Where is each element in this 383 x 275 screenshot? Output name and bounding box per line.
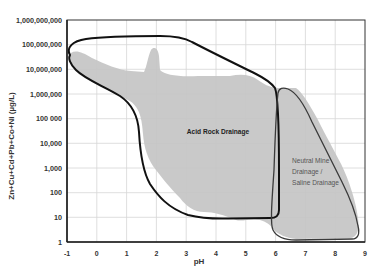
y-tick-label: 10,000,000 [26, 65, 62, 74]
y-tick-label: 1,000 [44, 164, 62, 173]
y-tick-label: 1 [58, 238, 62, 247]
x-tick-label: 1 [125, 250, 129, 257]
y-tick-labels: 1,000,000,000 100,000,000 10,000,000 1,0… [16, 16, 62, 247]
x-tick-label: 8 [333, 250, 337, 257]
y-tick-label: 1,000,000 [30, 90, 62, 99]
y-tick-label: 100 000 [36, 114, 62, 123]
neutral-mine-label-line3: Saline Drainage [292, 179, 339, 187]
x-tick-label: 7 [303, 250, 307, 257]
y-tick-label: 10,000 [40, 139, 62, 148]
x-tick-label: 9 [363, 250, 367, 257]
x-tick-label: 2 [154, 250, 158, 257]
x-tick-label: -1 [64, 250, 70, 257]
x-axis-title: pH [194, 257, 205, 266]
acid-rock-drainage-label: Acid Rock Drainage [187, 128, 250, 136]
x-tick-labels: -1 0 1 2 3 4 5 6 7 8 9 [64, 250, 367, 257]
neutral-mine-label-line2: Drainage / [292, 168, 323, 176]
x-tick-label: 3 [184, 250, 188, 257]
y-tick-label: 10 [54, 213, 62, 222]
neutral-mine-label-line1: Neutral Mine [292, 157, 330, 164]
x-tick-label: 4 [214, 250, 218, 257]
y-tick-label: 100 [50, 188, 62, 197]
x-tick-label: 0 [95, 250, 99, 257]
y-axis-title: Zn+Cu+Cd+Pb+Co+Ni (µg/L) [7, 92, 16, 200]
x-tick-label: 6 [274, 250, 278, 257]
y-tick-label: 100,000,000 [22, 40, 62, 49]
ficklin-chart: 1,000,000,000 100,000,000 10,000,000 1,0… [0, 0, 383, 275]
x-tick-label: 5 [244, 250, 248, 257]
y-tick-label: 1,000,000,000 [16, 16, 62, 25]
